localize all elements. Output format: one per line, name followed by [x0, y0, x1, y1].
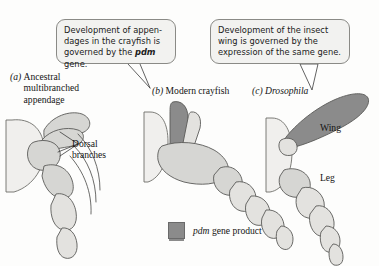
callout-crayfish-line1: Development of appen- — [64, 25, 168, 36]
callout-crayfish-line3-pre: governed by the — [64, 47, 135, 57]
callout-crayfish-line3: governed by the pdm gene. — [64, 47, 168, 69]
panel-label-a-line2: multibranched — [24, 82, 79, 93]
annotation-dorsal-line1: Dorsal — [72, 138, 106, 149]
panel-label-a-line3: appendage — [24, 94, 65, 105]
panel-label-a-text: Ancestral multibranched appendage — [24, 71, 79, 105]
panel-tag-a: (a) — [10, 71, 21, 82]
callout-insect-line1: Development of the insect — [218, 25, 342, 36]
annotation-dorsal-branches: Dorsal branches — [72, 138, 106, 161]
panel-label-a-line1: Ancestral — [24, 71, 61, 82]
legend-gene-name: pdm — [193, 225, 210, 236]
legend-swatch-pdm — [168, 222, 185, 239]
figure-canvas: .ln{fill:none;stroke:#5a5a58;stroke-widt… — [0, 0, 379, 266]
panel-label-a: (a) Ancestral multibranched appendage — [10, 71, 100, 105]
panel-tag-b: (b) — [152, 85, 163, 96]
callout-insect-line2: wing is governed by the — [218, 36, 342, 47]
legend: pdm gene product — [168, 222, 262, 239]
legend-label: pdm gene product — [193, 225, 262, 236]
panel-label-b: (b) Modern crayfish — [152, 85, 229, 96]
legend-label-rest: gene product — [210, 225, 262, 236]
panel-tag-c: (c) — [252, 85, 263, 96]
annotation-leg: Leg — [320, 172, 335, 183]
gene-name-pdm: pdm — [135, 47, 156, 57]
panel-label-c-text: Drosophila — [265, 85, 308, 96]
callout-crayfish-line3-post: gene. — [64, 59, 87, 69]
panel-label-b-text: Modern crayfish — [166, 85, 230, 96]
callout-crayfish: Development of appen- dages in the crayf… — [56, 19, 176, 64]
callout-crayfish-line2: dages in the crayfish is — [64, 36, 168, 47]
annotation-wing: Wing — [320, 122, 341, 133]
panel-a-ancestral-appendage — [6, 113, 100, 259]
panel-label-c: (c) Drosophila — [252, 85, 308, 96]
annotation-dorsal-line2: branches — [72, 149, 106, 160]
callout-insect-wing: Development of the insect wing is govern… — [210, 19, 350, 64]
callout-insect-line3: expression of the same gene. — [218, 47, 342, 58]
